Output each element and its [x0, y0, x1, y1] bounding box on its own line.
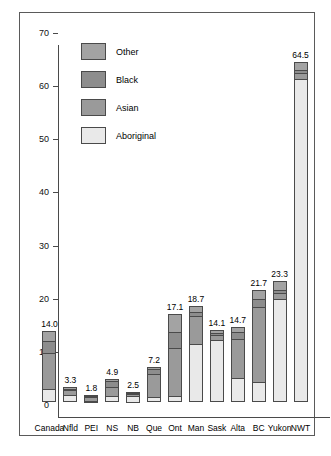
bar-value-label: 64.5 — [286, 51, 316, 60]
bar-segment-aboriginal — [63, 395, 77, 402]
bar-nfld — [63, 387, 77, 405]
bar-yukon — [273, 281, 287, 405]
bar-segment-black — [168, 332, 182, 350]
legend-item-other: Other — [81, 40, 156, 63]
stacked-bar-chart-figure: 706050403020100 14.03.31.84.92.57.217.11… — [0, 0, 331, 456]
bar-alta — [231, 327, 245, 405]
legend-item-aboriginal: Aboriginal — [81, 124, 156, 147]
bar-sask — [210, 330, 224, 405]
bar-segment-aboriginal — [273, 299, 287, 402]
legend-item-asian: Asian — [81, 96, 156, 119]
bar-canada — [42, 331, 56, 405]
bar-segment-aboriginal — [42, 389, 56, 402]
y-axis-tick-label: 60 — [25, 82, 49, 91]
chart-legend: OtherBlackAsianAboriginal — [81, 40, 156, 152]
bar-segment-other — [168, 314, 182, 333]
bar-segment-aboriginal — [84, 401, 98, 404]
bar-segment-asian — [168, 348, 182, 397]
legend-swatch-other — [81, 43, 106, 60]
legend-label-other: Other — [116, 47, 139, 57]
bar-nwt — [294, 62, 308, 405]
bar-segment-aboriginal — [189, 344, 203, 402]
y-axis-tick-label: 40 — [25, 188, 49, 197]
y-axis-tick-mark — [53, 192, 58, 193]
bar-value-label: 7.2 — [139, 356, 169, 365]
bar-segment-aboriginal — [126, 396, 140, 403]
legend-label-black: Black — [116, 75, 138, 85]
bar-man — [189, 306, 203, 405]
bar-value-label: 17.1 — [160, 303, 190, 312]
bar-value-label: 14.0 — [34, 320, 64, 329]
x-axis-line — [58, 417, 330, 418]
legend-label-aboriginal: Aboriginal — [116, 131, 156, 141]
bar-segment-asian — [42, 353, 56, 390]
bar-value-label: 14.7 — [223, 316, 253, 325]
y-axis-tick-mark — [53, 33, 58, 34]
bar-value-label: 18.7 — [181, 295, 211, 304]
bar-segment-aboriginal — [105, 396, 119, 402]
bar-value-label: 23.3 — [265, 270, 295, 279]
y-axis-tick-label: 30 — [25, 242, 49, 251]
bar-segment-aboriginal — [210, 340, 224, 402]
chart-frame: 706050403020100 14.03.31.84.92.57.217.11… — [19, 12, 315, 436]
legend-swatch-aboriginal — [81, 127, 106, 144]
x-axis-label-nwt: NWT — [284, 423, 318, 433]
y-axis-line — [58, 45, 59, 417]
legend-swatch-asian — [81, 99, 106, 116]
bar-segment-aboriginal — [147, 397, 161, 402]
y-axis-tick-mark — [53, 299, 58, 300]
legend-label-asian: Asian — [116, 103, 139, 113]
bar-bc — [252, 290, 266, 405]
bar-segment-asian — [189, 316, 203, 344]
bar-nb — [126, 392, 140, 405]
bar-segment-asian — [231, 339, 245, 379]
bar-value-label: 2.5 — [118, 381, 148, 390]
bar-value-label: 4.9 — [97, 368, 127, 377]
bar-segment-aboriginal — [252, 382, 266, 402]
bar-ont — [168, 314, 182, 405]
bar-segment-asian — [252, 307, 266, 383]
y-axis-tick-mark — [53, 139, 58, 140]
bar-segment-aboriginal — [168, 396, 182, 402]
y-axis-tick-label: 20 — [25, 295, 49, 304]
bar-value-label: 1.8 — [76, 384, 106, 393]
bar-que — [147, 367, 161, 405]
legend-swatch-black — [81, 71, 106, 88]
y-axis-tick-label: 70 — [25, 29, 49, 38]
bar-ns — [105, 379, 119, 405]
bar-segment-asian — [147, 374, 161, 397]
bar-segment-aboriginal — [231, 378, 245, 402]
y-axis-tick-mark — [53, 86, 58, 87]
bar-value-label: 21.7 — [244, 279, 274, 288]
bar-segment-aboriginal — [294, 79, 308, 402]
y-axis-tick-label: 50 — [25, 135, 49, 144]
bar-pei — [84, 395, 98, 405]
y-axis-tick-mark — [53, 246, 58, 247]
legend-item-black: Black — [81, 68, 156, 91]
